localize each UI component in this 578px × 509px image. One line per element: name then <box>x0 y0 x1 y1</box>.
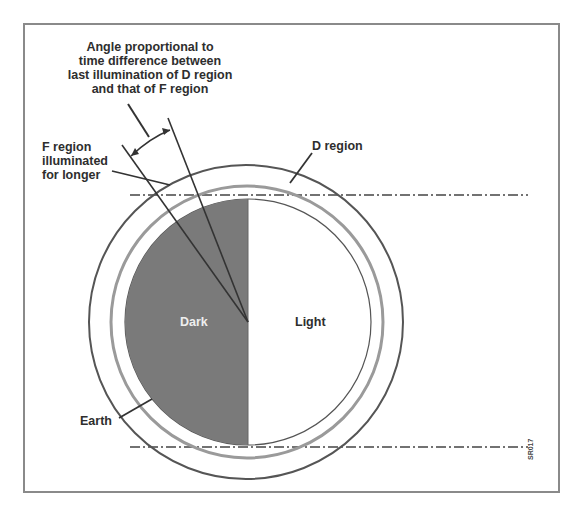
label-line: F region <box>42 140 108 154</box>
light-label: Light <box>295 315 326 329</box>
annotation-line: time difference between <box>62 54 238 68</box>
earth-label: Earth <box>80 414 112 428</box>
label-line: illuminated <box>42 154 108 168</box>
annotation-line: last illumination of D region <box>62 68 238 82</box>
title-leader <box>128 104 149 137</box>
f-region-leader <box>112 171 170 185</box>
annotation-line: and that of F region <box>62 82 238 96</box>
label-line: for longer <box>42 168 108 182</box>
dark-label: Dark <box>180 315 208 329</box>
figure-code: SR017 <box>527 439 534 460</box>
arrow-head-right <box>162 128 170 135</box>
f-region-label: F region illuminated for longer <box>42 140 108 182</box>
annotation-line: Angle proportional to <box>62 40 238 54</box>
d-region-label: D region <box>312 139 363 153</box>
angle-annotation: Angle proportional to time difference be… <box>62 40 238 96</box>
